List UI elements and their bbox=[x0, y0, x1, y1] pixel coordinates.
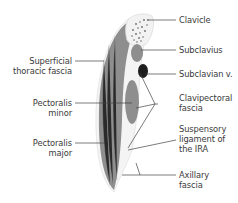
subclavius-shape bbox=[131, 44, 143, 62]
label-suspensory-ligament: Suspensoryligament ofthe IRA bbox=[179, 124, 226, 154]
label-subclavian-vein: Subclavian v. bbox=[179, 69, 233, 79]
label-axillary-fascia: Axillaryfascia bbox=[179, 170, 209, 190]
label-subclavius: Subclavius bbox=[179, 45, 223, 55]
label-superficial-thoracic-fascia: Superficialthoracic fascia bbox=[13, 56, 72, 76]
label-pectoralis-minor: Pectoralisminor bbox=[33, 98, 72, 118]
label-pectoralis-major: Pectoralismajor bbox=[33, 138, 72, 158]
label-clavicle: Clavicle bbox=[179, 15, 211, 25]
subclavian-vein-shape bbox=[138, 64, 148, 78]
pectoralis-minor-shape bbox=[125, 80, 139, 124]
clavicle-shape bbox=[126, 14, 154, 46]
label-clavipectoral-fascia: Clavipectoralfascia bbox=[179, 93, 232, 113]
